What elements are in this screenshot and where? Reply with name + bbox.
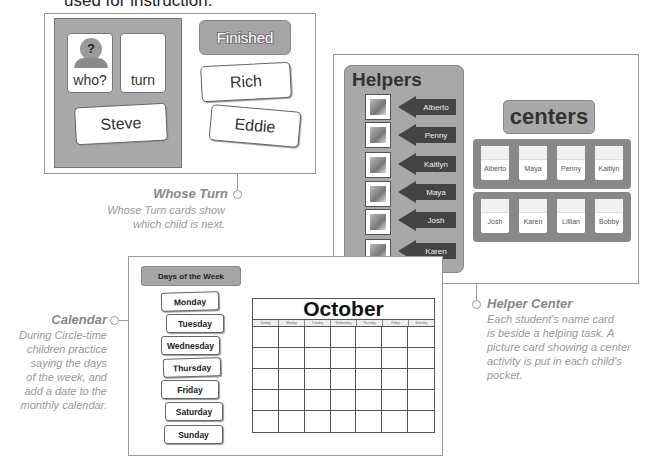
callout-dot xyxy=(472,300,481,309)
whose-turn-caption: Whose Turn cards show which child is nex… xyxy=(107,203,225,231)
helpers-title: Helpers xyxy=(352,69,422,91)
who-label: who? xyxy=(73,72,106,88)
whose-turn-board: ? who? turn Steve xyxy=(54,18,182,168)
helper-center-caption: Each student's name card is beside a hel… xyxy=(487,312,631,382)
helper-arrow[interactable]: Alberto xyxy=(398,96,458,118)
center-pocket[interactable]: Josh xyxy=(481,199,509,233)
current-name-card[interactable]: Steve xyxy=(74,103,168,146)
day-card[interactable]: Sunday xyxy=(164,425,223,444)
day-card[interactable]: Thursday xyxy=(163,357,221,378)
connector-line xyxy=(118,320,128,321)
helpers-board: Helpers Alberto Penny Kaitlyn Maya Josh … xyxy=(344,65,464,273)
calendar-caption-title: Calendar xyxy=(51,312,107,327)
turn-card: turn xyxy=(120,33,166,93)
helper-arrow[interactable]: Penny xyxy=(398,124,458,146)
day-card[interactable]: Friday xyxy=(161,380,219,399)
center-pocket[interactable]: Maya xyxy=(519,146,547,180)
connector-line xyxy=(476,284,477,301)
centers-row: Josh Karen Lillian Bobby xyxy=(473,192,631,242)
day-card[interactable]: Tuesday xyxy=(166,314,224,333)
center-pocket[interactable]: Alberto xyxy=(481,146,509,180)
helper-arrow[interactable]: Kaitlyn xyxy=(398,153,458,175)
day-card[interactable]: Wednesday xyxy=(161,336,220,355)
task-picture-icon xyxy=(365,181,391,207)
person-question-icon: ? xyxy=(80,38,102,60)
finished-name-card[interactable]: Eddie xyxy=(209,104,302,148)
task-picture-icon xyxy=(365,152,391,178)
monthly-calendar: October Sunday Monday Tuesday Wednesday … xyxy=(252,298,435,433)
center-pocket[interactable]: Bobby xyxy=(595,199,623,233)
intro-text: used for instruction. xyxy=(64,0,212,11)
center-pocket[interactable]: Lillian xyxy=(557,199,585,233)
centers-title: centers xyxy=(503,100,595,134)
days-of-week-title: Days of the Week xyxy=(141,266,241,286)
task-picture-icon xyxy=(365,122,391,148)
centers-row: Alberto Maya Penny Kaitlyn xyxy=(473,139,631,189)
center-pocket[interactable]: Kaitlyn xyxy=(595,146,623,180)
center-pocket[interactable]: Karen xyxy=(519,199,547,233)
calendar-grid[interactable] xyxy=(253,327,434,432)
callout-dot xyxy=(233,190,242,199)
task-picture-icon xyxy=(365,209,391,235)
helper-center-caption-title: Helper Center xyxy=(487,296,572,311)
helper-arrow[interactable]: Maya xyxy=(398,181,458,203)
person-shoulders-icon xyxy=(74,58,108,68)
whose-turn-caption-title: Whose Turn xyxy=(153,186,228,201)
weekday-header-row: Sunday Monday Tuesday Wednesday Thursday… xyxy=(253,319,434,327)
finished-name-card[interactable]: Rich xyxy=(200,62,292,103)
finished-header: Finished xyxy=(199,20,291,55)
who-card: ? who? xyxy=(67,33,113,93)
turn-label: turn xyxy=(131,72,155,88)
callout-dot xyxy=(110,316,119,325)
month-title: October xyxy=(253,297,434,321)
calendar-caption: During Circle-time children practice say… xyxy=(19,328,107,412)
center-pocket[interactable]: Penny xyxy=(557,146,585,180)
connector-line xyxy=(237,174,238,191)
day-card[interactable]: Monday xyxy=(161,291,219,312)
day-card[interactable]: Saturday xyxy=(165,402,223,421)
helper-arrow[interactable]: Josh xyxy=(398,209,458,231)
task-picture-icon xyxy=(365,94,391,120)
